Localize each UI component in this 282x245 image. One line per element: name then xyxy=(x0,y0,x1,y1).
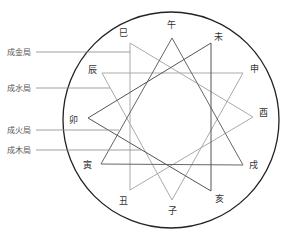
legend-label-fire: 成火局 xyxy=(7,125,31,135)
branch-label: 卯 xyxy=(69,115,78,125)
branch-label: 辰 xyxy=(88,65,97,75)
branch-label: 未 xyxy=(214,31,223,42)
branch-label: 酉 xyxy=(259,108,268,118)
legend-label-water: 成水局 xyxy=(7,83,31,93)
branch-label: 巳 xyxy=(119,28,128,38)
branch-label: 亥 xyxy=(215,193,224,204)
outer-circle xyxy=(63,12,279,228)
branch-label: 申 xyxy=(250,63,259,74)
legend-label-wood: 成木局 xyxy=(7,145,31,155)
triangle-metal xyxy=(130,43,253,190)
triangle-wood xyxy=(88,43,211,191)
triangle-water xyxy=(102,73,243,200)
branch-label: 丑 xyxy=(119,196,128,206)
branch-label: 午 xyxy=(167,19,176,30)
branch-label: 子 xyxy=(168,206,177,216)
branch-label: 寅 xyxy=(83,159,92,170)
branch-label: 戌 xyxy=(249,159,258,170)
triangle-fire xyxy=(101,38,243,165)
three-harmony-diagram: 午未申酉戌亥子丑寅卯辰巳 成金局成水局成火局成木局 xyxy=(0,0,282,245)
branch-label-group: 午未申酉戌亥子丑寅卯辰巳 xyxy=(69,19,268,216)
triangle-group xyxy=(88,38,253,200)
legend-label-group: 成金局成水局成火局成木局 xyxy=(7,47,31,155)
legend-label-metal: 成金局 xyxy=(7,47,31,57)
